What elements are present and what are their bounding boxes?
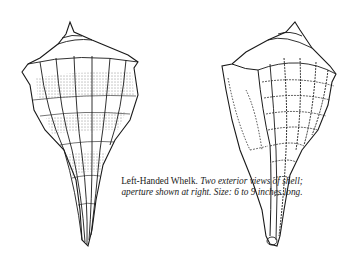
figure-caption: Left-Handed Whelk. Two exterior views of… — [112, 176, 312, 198]
caption-title: Left-Handed Whelk. — [121, 176, 198, 186]
left-shell-view — [22, 22, 138, 246]
whelk-illustration — [0, 0, 357, 268]
shell-illustration-figure: Left-Handed Whelk. Two exterior views of… — [0, 0, 357, 268]
right-shell-view — [222, 22, 336, 246]
